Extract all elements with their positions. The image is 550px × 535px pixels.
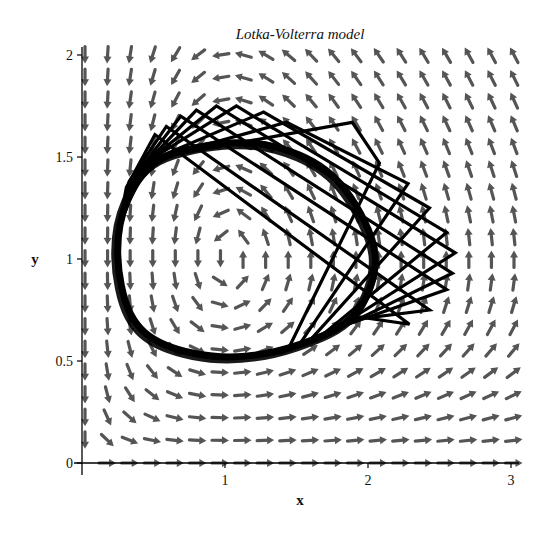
field-arrow — [195, 274, 203, 290]
field-arrow — [149, 183, 157, 200]
field-arrow — [193, 298, 203, 312]
field-arrow — [127, 364, 134, 380]
field-arrow — [236, 209, 250, 219]
field-arrow — [191, 50, 205, 60]
field-arrow — [483, 436, 500, 444]
field-arrow — [510, 47, 518, 62]
field-arrow — [509, 343, 520, 356]
field-arrow — [104, 160, 112, 177]
field-arrow — [465, 273, 473, 290]
field-arrow — [442, 70, 450, 85]
field-arrow — [171, 251, 179, 268]
field-arrow — [126, 69, 134, 86]
y-tick-label: 0.5 — [56, 354, 74, 369]
field-arrow — [172, 273, 180, 290]
field-arrow — [235, 323, 251, 331]
field-arrow — [416, 391, 432, 399]
field-arrow — [148, 92, 156, 108]
field-arrow — [127, 341, 135, 357]
field-arrow — [261, 228, 269, 244]
field-arrow — [171, 183, 179, 199]
field-arrow — [239, 251, 247, 268]
field-arrow — [235, 51, 251, 59]
field-arrow — [282, 322, 295, 333]
field-arrow — [465, 183, 473, 199]
field-arrow — [172, 296, 180, 312]
field-arrow — [351, 93, 360, 107]
field-arrow — [280, 368, 296, 376]
x-axis-label: x — [296, 492, 304, 508]
field-arrow — [510, 251, 518, 268]
field-arrow — [325, 436, 342, 444]
field-arrow — [126, 115, 134, 132]
field-arrow — [328, 71, 338, 84]
field-arrow — [506, 391, 521, 399]
field-arrow — [149, 251, 157, 268]
y-tick-label: 2 — [66, 48, 73, 63]
field-arrow — [171, 320, 180, 335]
field-arrow — [145, 414, 160, 422]
field-arrow — [235, 414, 252, 422]
field-arrow — [283, 297, 293, 311]
field-arrow — [418, 344, 430, 356]
field-arrow — [510, 115, 518, 131]
field-arrow — [194, 206, 202, 221]
field-arrow — [397, 70, 406, 85]
field-arrow — [510, 138, 517, 154]
field-arrow — [191, 322, 205, 332]
field-arrow — [124, 412, 137, 423]
field-arrow — [394, 368, 408, 377]
field-arrow — [419, 115, 427, 130]
field-arrow — [238, 229, 248, 243]
field-arrow — [104, 319, 112, 336]
field-arrow — [148, 115, 156, 131]
field-arrow — [465, 320, 473, 335]
field-arrow — [348, 413, 365, 421]
vector-field — [81, 47, 523, 468]
field-arrow — [167, 414, 184, 422]
field-arrow — [144, 437, 161, 445]
field-arrow — [483, 413, 499, 421]
field-arrow — [104, 410, 112, 425]
field-arrow — [237, 275, 249, 288]
field-arrow — [511, 296, 519, 312]
field-arrow — [126, 273, 134, 290]
field-arrow — [465, 296, 473, 312]
x-tick-label: 3 — [508, 473, 515, 488]
field-arrow — [415, 436, 432, 444]
field-arrow — [235, 345, 252, 353]
field-arrow — [171, 70, 179, 85]
field-arrow — [487, 228, 495, 245]
field-arrow — [259, 96, 273, 106]
field-arrow — [213, 277, 227, 286]
field-arrow — [465, 48, 473, 63]
field-arrow — [487, 160, 495, 176]
field-arrow — [236, 187, 251, 195]
field-arrow — [465, 205, 473, 222]
field-arrow — [212, 51, 229, 59]
field-arrow — [262, 274, 270, 290]
field-arrow — [397, 138, 405, 153]
field-arrow — [487, 48, 495, 63]
field-arrow — [371, 368, 386, 377]
field-arrow — [189, 436, 206, 444]
field-arrow — [103, 47, 111, 64]
field-arrow — [393, 391, 409, 398]
field-arrow — [260, 298, 272, 310]
field-arrow — [374, 71, 383, 85]
field-arrow — [147, 366, 158, 379]
field-arrow — [326, 368, 341, 376]
field-arrow — [371, 391, 387, 399]
field-arrow — [488, 296, 496, 312]
field-arrow — [212, 368, 229, 376]
field-arrow — [194, 228, 202, 244]
field-arrow — [419, 183, 427, 199]
field-arrow — [443, 296, 451, 312]
field-arrow — [194, 251, 202, 268]
field-arrow — [506, 436, 523, 444]
field-arrow — [104, 273, 112, 290]
field-arrow — [282, 72, 295, 83]
field-arrow — [126, 47, 134, 64]
field-arrow — [442, 48, 451, 63]
field-arrow — [307, 206, 315, 222]
